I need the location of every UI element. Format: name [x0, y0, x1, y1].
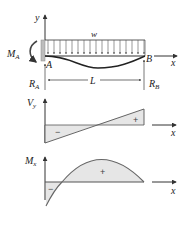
beam-diagram: y — [6, 12, 177, 91]
y-axis-label: y — [34, 12, 40, 23]
moment-positive-sign: + — [100, 167, 105, 177]
point-a-label: A — [45, 59, 53, 70]
propped-cantilever-diagram: y — [0, 0, 187, 227]
shear-positive-sign: + — [133, 115, 138, 125]
shear-y-label: Vy — [27, 97, 37, 110]
fixed-wall — [41, 40, 45, 61]
load-label: w — [91, 29, 97, 39]
length-label: L — [89, 75, 96, 86]
moment-diagram: Mx − + x — [24, 155, 176, 206]
x-axis-label: x — [170, 57, 176, 68]
moment-label: MA — [6, 48, 20, 61]
moment-negative-sign: − — [48, 184, 53, 194]
moment-arrow — [30, 41, 37, 62]
shear-negative-sign: − — [55, 127, 60, 137]
point-b-label: B — [146, 53, 152, 64]
shear-diagram: Vy − + x — [27, 97, 176, 143]
moment-x-label: x — [170, 185, 176, 196]
moment-y-label: Mx — [24, 155, 37, 168]
deflection-curve — [45, 56, 145, 68]
distributed-load — [45, 40, 145, 56]
shear-x-label: x — [170, 127, 176, 138]
reaction-a-label: RA — [28, 78, 40, 91]
reaction-b-label: RB — [148, 78, 160, 91]
